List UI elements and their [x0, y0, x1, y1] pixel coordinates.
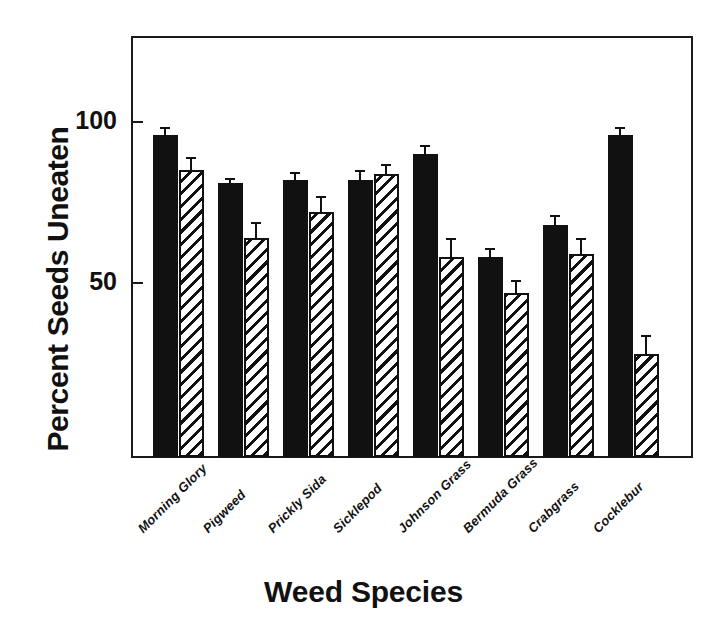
y-tick-label-50: 50 — [47, 267, 117, 296]
error-cap-hatched-0 — [186, 157, 196, 159]
bar-hatched-7 — [634, 354, 659, 457]
error-cap-solid-4 — [420, 145, 430, 147]
error-bar-hatched-4 — [450, 238, 452, 257]
bar-hatched-3 — [374, 174, 399, 457]
bar-solid-5 — [478, 257, 503, 457]
x-axis-title: Weed Species — [0, 575, 727, 609]
error-cap-hatched-7 — [641, 335, 651, 337]
error-cap-solid-7 — [615, 127, 625, 129]
error-cap-solid-1 — [225, 178, 235, 180]
x-tick-label-6: Crabgrass — [525, 478, 582, 535]
bar-hatched-4 — [439, 257, 464, 457]
y-tick-mark-100 — [131, 121, 143, 123]
error-cap-solid-5 — [485, 248, 495, 250]
y-tick-mark-50 — [131, 282, 143, 284]
error-bar-hatched-7 — [645, 335, 647, 354]
error-cap-hatched-2 — [316, 196, 326, 198]
bar-solid-2 — [283, 180, 308, 457]
bar-hatched-2 — [309, 212, 334, 457]
error-cap-solid-6 — [550, 215, 560, 217]
error-cap-solid-3 — [355, 170, 365, 172]
bar-hatched-0 — [179, 170, 204, 457]
error-cap-hatched-6 — [576, 238, 586, 240]
error-cap-hatched-4 — [446, 238, 456, 240]
error-cap-hatched-1 — [251, 222, 261, 224]
bar-hatched-1 — [244, 238, 269, 457]
x-tick-label-1: Pigweed — [200, 487, 249, 536]
x-tick-label-7: Cocklebur — [590, 479, 647, 536]
x-tick-label-3: Sicklepod — [330, 480, 385, 535]
bar-solid-4 — [413, 154, 438, 457]
bar-solid-0 — [153, 135, 178, 457]
bar-hatched-5 — [504, 293, 529, 457]
bar-hatched-6 — [569, 254, 594, 457]
error-cap-solid-0 — [160, 127, 170, 129]
bar-solid-6 — [543, 225, 568, 457]
y-tick-label-100: 100 — [47, 106, 117, 135]
x-tick-label-2: Prickly Sida — [265, 471, 329, 535]
error-bar-hatched-2 — [320, 196, 322, 212]
bar-solid-7 — [608, 135, 633, 457]
chart-figure: the study of seed predation rates and th… — [0, 0, 727, 625]
error-bar-hatched-1 — [255, 222, 257, 238]
error-bar-hatched-6 — [580, 238, 582, 254]
error-cap-hatched-3 — [381, 164, 391, 166]
error-cap-solid-2 — [290, 172, 300, 174]
bar-solid-1 — [218, 183, 243, 457]
error-cap-hatched-5 — [511, 280, 521, 282]
bar-solid-3 — [348, 180, 373, 457]
